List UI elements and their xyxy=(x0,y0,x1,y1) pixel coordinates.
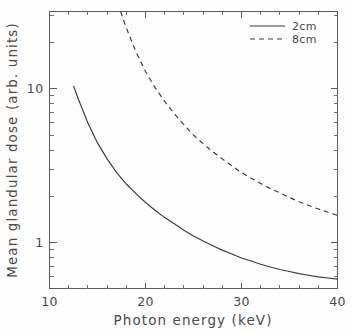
legend-label-2cm: 2cm xyxy=(292,20,317,33)
legend-label-8cm: 8cm xyxy=(292,33,317,46)
y-tick-label: 10 xyxy=(27,81,44,96)
chart-plot-area: 10203040 110 2cm 8cm Photon energy (keV)… xyxy=(0,0,352,333)
y-axis-ticks xyxy=(50,16,338,277)
chart-figure: 10203040 110 2cm 8cm Photon energy (keV)… xyxy=(0,0,352,333)
x-axis-title: Photon energy (keV) xyxy=(114,312,273,328)
x-axis-tick-labels: 10203040 xyxy=(41,294,346,309)
axes-frame xyxy=(50,12,338,289)
x-tick-label: 30 xyxy=(233,294,250,309)
y-axis-title: Mean glandular dose (arb. units) xyxy=(4,22,20,278)
x-tick-label: 40 xyxy=(329,294,346,309)
x-tick-label: 10 xyxy=(41,294,58,309)
series-line-2cm xyxy=(74,86,338,279)
data-series-group xyxy=(74,12,338,280)
x-axis-ticks xyxy=(50,12,338,289)
x-tick-label: 20 xyxy=(137,294,154,309)
chart-legend: 2cm 8cm xyxy=(250,20,317,46)
y-axis-tick-labels: 110 xyxy=(27,81,44,249)
y-tick-label: 1 xyxy=(35,235,43,250)
